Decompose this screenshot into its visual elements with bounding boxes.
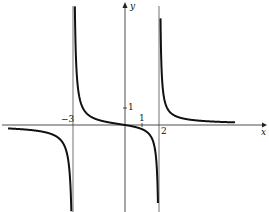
curve-middle-branch [75,6,158,203]
y-axis-label: y [130,2,135,11]
curve-right-branch [161,18,235,122]
tick-label-y1: 1 [128,103,134,112]
x-axis-label: x [261,128,266,137]
tick-label-neg3: −3 [61,115,74,124]
tick-label-x1: 1 [139,114,145,123]
curve-left-branch [8,128,71,211]
y-axis-arrow-icon [123,2,128,8]
tick-label-2: 2 [161,127,167,136]
function-graph [0,0,269,212]
